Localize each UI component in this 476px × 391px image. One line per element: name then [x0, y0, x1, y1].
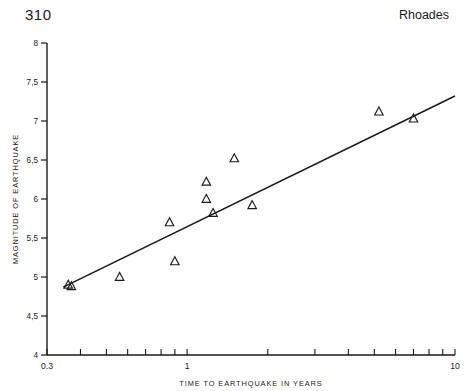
data-point-marker [202, 194, 210, 202]
y-tick-label: 6 [33, 195, 38, 204]
data-point-marker [230, 154, 238, 162]
x-axis-ticks [47, 349, 455, 355]
data-point-marker [248, 201, 256, 209]
y-axis-title: MAGNITUDE OF EARTHQUAKE [11, 134, 20, 264]
data-point-marker [202, 177, 210, 185]
plot-canvas: 87,576,565,554,54 0.3110 TIME TO EARTHQU… [0, 0, 476, 391]
regression-fit-line [63, 96, 455, 287]
y-tick-label: 5,5 [27, 234, 39, 243]
y-tick-label: 8 [33, 39, 38, 48]
data-point-group [64, 107, 418, 290]
y-axis-tick-labels: 87,576,565,554,54 [27, 39, 39, 360]
scatter-plot-figure: 87,576,565,554,54 0.3110 TIME TO EARTHQU… [0, 0, 476, 391]
axes-group [47, 43, 455, 355]
x-tick-label: 0.3 [41, 361, 53, 371]
y-tick-label: 6,5 [27, 156, 39, 165]
y-tick-label: 7,5 [27, 78, 39, 87]
y-axis-ticks [41, 43, 47, 355]
x-tick-label: 1 [185, 361, 190, 371]
x-axis-tick-labels: 0.3110 [41, 361, 460, 371]
data-point-marker [171, 257, 179, 265]
data-point-marker [115, 272, 123, 280]
y-tick-label: 7 [33, 117, 38, 126]
y-tick-label: 4 [33, 351, 38, 360]
x-tick-label: 10 [450, 361, 460, 371]
y-tick-label: 4,5 [27, 312, 39, 321]
data-point-marker [375, 107, 383, 115]
data-point-marker [165, 218, 173, 226]
y-tick-label: 5 [33, 273, 38, 282]
x-axis-title: TIME TO EARTHQUAKE IN YEARS [179, 379, 322, 388]
